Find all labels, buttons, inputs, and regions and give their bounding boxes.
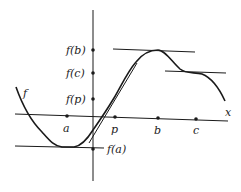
- x-point-c-label: c: [193, 124, 199, 137]
- x-axis-label: x: [225, 106, 232, 119]
- y-point-dot: [91, 97, 95, 101]
- x-point-c-dot: [194, 117, 198, 121]
- y-point-label: f(b): [65, 44, 86, 57]
- y-point-dot: [91, 147, 95, 151]
- x-point-a-label: a: [63, 122, 70, 135]
- y-point-labels: f(b)f(c)f(p)f(a): [65, 44, 126, 156]
- y-point-dot: [91, 71, 95, 75]
- function-diagram: f x apbc f(b)f(c)f(p)f(a): [0, 0, 241, 192]
- x-point-p-label: p: [111, 123, 118, 136]
- y-point-label: f(c): [65, 67, 85, 80]
- x-point-labels: apbc: [63, 122, 199, 137]
- y-point-dot: [91, 48, 95, 52]
- x-point-b-dot: [156, 116, 160, 120]
- x-point-b-label: b: [154, 124, 161, 137]
- y-point-label: f(a): [106, 143, 126, 156]
- x-point-a-dot: [65, 114, 69, 118]
- curve-label: f: [22, 87, 29, 100]
- x-point-p-dot: [113, 115, 117, 119]
- y-point-label: f(p): [65, 93, 86, 106]
